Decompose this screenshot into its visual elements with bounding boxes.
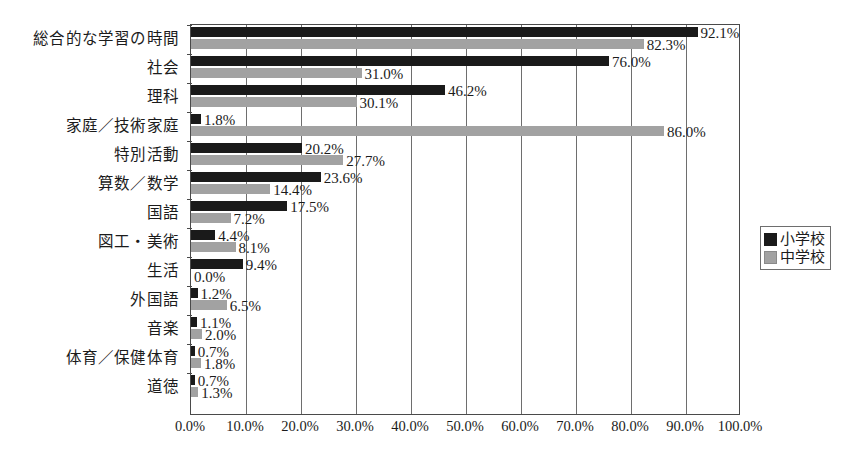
bar-juniorhigh (191, 184, 270, 194)
bar-value-label: 6.5% (230, 299, 261, 314)
bar-value-label: 0.0% (194, 270, 225, 285)
bar-juniorhigh (191, 213, 231, 223)
axis-tick (187, 228, 192, 229)
legend-label-juniorhigh: 中学校 (780, 248, 825, 266)
bar-elementary (191, 288, 198, 298)
bar-value-label: 7.2% (234, 212, 265, 227)
bar-juniorhigh (191, 155, 343, 165)
bar-value-label: 30.1% (360, 96, 399, 111)
category-label: 社会 (0, 53, 185, 82)
x-tick-label: 30.0% (336, 418, 373, 435)
bar-value-label: 92.1% (701, 26, 740, 41)
bar-group: 17.5%7.2% (191, 199, 739, 228)
bar-value-label: 23.6% (324, 171, 363, 186)
bar-group: 9.4%0.0% (191, 257, 739, 286)
category-label: 総合的な学習の時間 (0, 24, 185, 53)
bar-value-label: 76.0% (612, 55, 651, 70)
axis-tick (187, 315, 192, 316)
bar-group: 1.2%6.5% (191, 286, 739, 315)
legend-item-elementary: 小学校 (764, 230, 825, 248)
bar-elementary (191, 27, 698, 37)
bar-elementary (191, 375, 195, 385)
category-label: 生活 (0, 256, 185, 285)
bar-juniorhigh (191, 97, 357, 107)
bar-juniorhigh (191, 387, 198, 397)
category-label: 特別活動 (0, 140, 185, 169)
bar-group: 76.0%31.0% (191, 54, 739, 83)
bar-value-label: 31.0% (365, 67, 404, 82)
legend-item-juniorhigh: 中学校 (764, 248, 825, 266)
axis-tick (187, 199, 192, 200)
value-axis: 0.0%10.0%20.0%30.0%40.0%50.0%60.0%70.0%8… (190, 418, 740, 442)
category-label: 理科 (0, 82, 185, 111)
x-tick-label: 40.0% (391, 418, 428, 435)
plot-area: 92.1%82.3%76.0%31.0%46.2%30.1%1.8%86.0%2… (190, 24, 740, 415)
x-tick-label: 70.0% (556, 418, 593, 435)
category-label: 家庭／技術家庭 (0, 111, 185, 140)
bar-value-label: 14.4% (273, 183, 312, 198)
category-label: 音楽 (0, 314, 185, 343)
axis-tick (187, 54, 192, 55)
bar-value-label: 2.0% (205, 328, 236, 343)
bar-juniorhigh (191, 68, 362, 78)
bar-value-label: 1.3% (201, 386, 232, 401)
bar-elementary (191, 114, 201, 124)
bar-group: 1.8%86.0% (191, 112, 739, 141)
axis-tick (187, 344, 192, 345)
bar-elementary (191, 259, 243, 269)
bar-juniorhigh (191, 329, 202, 339)
bar-value-label: 8.1% (239, 241, 270, 256)
bar-group: 0.7%1.8% (191, 344, 739, 373)
x-tick-label: 20.0% (281, 418, 318, 435)
bar-value-label: 9.4% (246, 258, 277, 273)
x-tick-label: 100.0% (718, 418, 763, 435)
x-tick-label: 50.0% (446, 418, 483, 435)
bar-value-label: 17.5% (290, 200, 329, 215)
bar-value-label: 86.0% (667, 125, 706, 140)
chart-legend: 小学校 中学校 (760, 226, 831, 270)
bar-group: 46.2%30.1% (191, 83, 739, 112)
legend-swatch-elementary-icon (764, 233, 777, 246)
axis-tick (187, 112, 192, 113)
bar-elementary (191, 143, 302, 153)
category-label: 外国語 (0, 285, 185, 314)
bar-value-label: 82.3% (647, 38, 686, 53)
bar-value-label: 46.2% (448, 84, 487, 99)
bar-elementary (191, 201, 287, 211)
x-tick-label: 0.0% (175, 418, 205, 435)
bar-chart: 総合的な学習の時間社会理科家庭／技術家庭特別活動算数／数学国語図工・美術生活外国… (0, 0, 857, 456)
axis-tick (187, 373, 192, 374)
category-axis: 総合的な学習の時間社会理科家庭／技術家庭特別活動算数／数学国語図工・美術生活外国… (0, 24, 185, 401)
category-label: 算数／数学 (0, 169, 185, 198)
bar-elementary (191, 346, 195, 356)
x-tick-label: 90.0% (666, 418, 703, 435)
bar-group: 4.4%8.1% (191, 228, 739, 257)
bar-elementary (191, 85, 445, 95)
bar-juniorhigh (191, 358, 201, 368)
bar-elementary (191, 230, 215, 240)
bar-elementary (191, 317, 197, 327)
bar-value-label: 1.8% (204, 357, 235, 372)
category-label: 図工・美術 (0, 227, 185, 256)
bar-value-label: 27.7% (346, 154, 385, 169)
legend-label-elementary: 小学校 (780, 230, 825, 248)
bar-juniorhigh (191, 300, 227, 310)
x-tick-label: 80.0% (611, 418, 648, 435)
bar-group: 23.6%14.4% (191, 170, 739, 199)
axis-tick (187, 25, 192, 26)
bar-group: 92.1%82.3% (191, 25, 739, 54)
axis-tick (187, 286, 192, 287)
legend-swatch-juniorhigh-icon (764, 251, 777, 264)
category-label: 道徳 (0, 372, 185, 401)
axis-tick (187, 141, 192, 142)
category-label: 国語 (0, 198, 185, 227)
bar-juniorhigh (191, 126, 664, 136)
bar-group: 20.2%27.7% (191, 141, 739, 170)
x-tick-label: 10.0% (226, 418, 263, 435)
bar-group: 1.1%2.0% (191, 315, 739, 344)
x-tick-label: 60.0% (501, 418, 538, 435)
axis-tick (187, 257, 192, 258)
category-label: 体育／保健体育 (0, 343, 185, 372)
bar-juniorhigh (191, 39, 644, 49)
bar-elementary (191, 56, 609, 66)
